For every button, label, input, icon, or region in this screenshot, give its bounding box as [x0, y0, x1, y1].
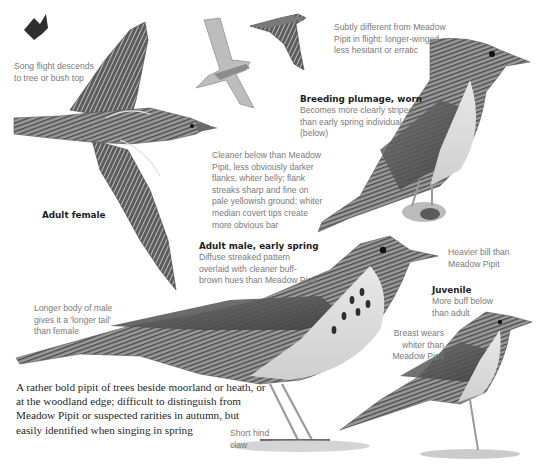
- adult-male-text: Diffuse streaked pattern overlaid with c…: [199, 252, 319, 287]
- song-flight-note: Song flight descends to tree or bush top: [14, 61, 94, 84]
- juvenile-title: Juvenile: [432, 284, 512, 296]
- juvenile-note: Juvenile More buff below than adult: [432, 284, 512, 319]
- breast-note: Breast wears whiter than Meadow Pipit: [378, 328, 444, 363]
- species-intro: A rather bold pipit of trees beside moor…: [16, 380, 266, 437]
- field-guide-plate: Song flight descends to tree or bush top…: [0, 0, 543, 468]
- body-length-text: Longer body of male gives it a 'longer t…: [34, 303, 124, 338]
- flight-difference-note: Subtly different from Meadow Pipit in fl…: [334, 22, 446, 57]
- flight-bird-pale: [196, 18, 254, 108]
- bill-note: Heavier bill than Meadow Pipit: [448, 247, 518, 270]
- juvenile-text: More buff below than adult: [432, 296, 512, 319]
- bill-text: Heavier bill than Meadow Pipit: [448, 247, 518, 270]
- breeding-plumage-note: Breeding plumage, worn Becomes more clea…: [300, 93, 428, 140]
- song-flight-bird: [24, 14, 48, 40]
- adult-male-note: Adult male, early spring Diffuse streake…: [199, 240, 319, 287]
- underparts-text: Cleaner below than Meadow Pipit, less ob…: [212, 150, 324, 231]
- underparts-note: Cleaner below than Meadow Pipit, less ob…: [212, 150, 324, 231]
- breast-text: Breast wears whiter than Meadow Pipit: [378, 328, 444, 363]
- flight-bird-dark: [250, 14, 306, 70]
- breeding-plumage-title: Breeding plumage, worn: [300, 93, 428, 105]
- song-flight-text: Song flight descends to tree or bush top: [14, 61, 94, 84]
- body-length-note: Longer body of male gives it a 'longer t…: [34, 303, 124, 338]
- adult-male-title: Adult male, early spring: [199, 240, 319, 252]
- breeding-plumage-text: Becomes more clearly striped than early …: [300, 105, 428, 140]
- adult-female-label: Adult female: [42, 210, 106, 220]
- flight-difference-text: Subtly different from Meadow Pipit in fl…: [334, 22, 446, 57]
